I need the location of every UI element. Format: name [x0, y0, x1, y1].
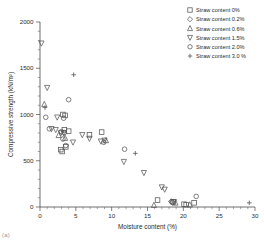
data-point-circle [122, 147, 127, 152]
data-point-square [99, 130, 104, 135]
data-point-circle [194, 194, 199, 199]
y-tick-label: 1000 [20, 111, 34, 118]
data-point-triangle-down [55, 115, 60, 120]
x-tick-label: 15 [144, 212, 151, 219]
x-axis-title: Moisture content (%) [118, 223, 177, 231]
x-tick-label: 20 [180, 212, 187, 219]
legend-marker-circle [188, 45, 192, 49]
data-point-triangle-down [53, 127, 58, 132]
legend-label: Straw content 3.0 % [196, 53, 246, 59]
data-point-square [155, 198, 160, 203]
scatter-plot: 0500100015002000051015202530Moisture con… [0, 0, 264, 247]
data-point-triangle-down [80, 133, 85, 138]
legend-marker-square [188, 8, 192, 12]
x-tick-label: 30 [252, 212, 259, 219]
data-point-triangle-down [121, 159, 126, 164]
x-tick-label: 10 [108, 212, 115, 219]
y-tick-label: 1500 [20, 64, 34, 71]
data-point-square [66, 129, 71, 134]
figure-caption: (a) [2, 232, 10, 238]
figure-container: 0500100015002000051015202530Moisture con… [0, 0, 264, 247]
data-point-square [192, 201, 197, 206]
legend-label: Straw content 1.5% [196, 35, 245, 41]
data-point-square [58, 147, 63, 152]
data-point-triangle-down [162, 187, 167, 192]
y-tick-label: 2000 [20, 18, 34, 25]
y-tick-label: 0 [30, 203, 34, 210]
legend-label: Straw content 0.6% [196, 26, 245, 32]
data-point-triangle-down [70, 140, 75, 145]
data-point-triangle-down [45, 85, 50, 90]
data-point-circle [66, 97, 71, 102]
data-point-triangle-down [141, 170, 146, 175]
x-tick-label: 25 [216, 212, 223, 219]
x-tick-label: 0 [38, 212, 42, 219]
data-point-triangle-up [42, 101, 47, 106]
y-axis-title: Compressive strength (kN/m²) [7, 72, 15, 157]
legend-label: Straw content 0.2% [196, 16, 245, 22]
data-point-square [60, 149, 65, 154]
legend-marker-triangle-up [188, 26, 193, 31]
data-point-circle [43, 115, 48, 120]
x-tick-label: 5 [74, 212, 78, 219]
legend-label: Straw content 0% [196, 7, 240, 13]
legend-marker-diamond [187, 17, 192, 22]
legend-marker-triangle-down [188, 35, 193, 40]
data-point-circle [64, 143, 69, 148]
y-tick-label: 500 [23, 157, 34, 164]
legend-label: Straw content 2.0% [196, 44, 245, 50]
